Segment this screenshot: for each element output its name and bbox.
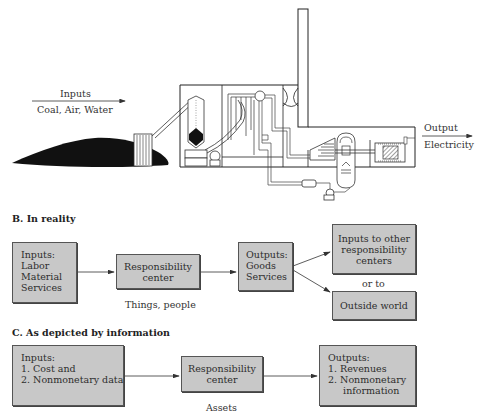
c-center-line: Responsibility — [188, 363, 256, 374]
b-other-centers-box: Inputs to other responsibility centers — [332, 224, 416, 274]
c-outputs-line: 2. Nonmonetary — [328, 374, 415, 385]
c-inputs-line: 2. Nonmonetary data — [21, 374, 123, 385]
b-other-centers-line: centers — [356, 255, 392, 266]
c-inputs-line: 1. Cost and — [21, 363, 123, 374]
b-inputs-line: Services — [21, 282, 76, 293]
b-center-caption: Things, people — [125, 299, 196, 310]
c-outputs-line: information — [328, 385, 415, 396]
c-inputs-line: Inputs: — [21, 352, 123, 363]
b-inputs-line: Labor — [21, 260, 76, 271]
inputs-label: Inputs — [60, 88, 91, 99]
b-inputs-line: Inputs: — [21, 249, 76, 260]
c-inputs-box: Inputs: 1. Cost and 2. Nonmonetary data — [12, 345, 124, 406]
b-inputs-line: Material — [21, 271, 76, 282]
c-center-line: center — [206, 374, 237, 385]
b-outputs-line: Goods — [246, 260, 292, 271]
b-center-line: center — [142, 272, 173, 283]
b-outside-world-box: Outside world — [332, 291, 416, 320]
section-c-title: C. As depicted by information — [12, 327, 170, 338]
b-other-centers-line: Inputs to other — [338, 233, 410, 244]
b-outputs-box: Outputs: Goods Services — [238, 242, 293, 291]
b-inputs-box: Inputs: Labor Material Services — [12, 242, 77, 303]
b-outside-line: Outside world — [340, 300, 408, 311]
b-responsibility-center-box: Responsibility center — [116, 254, 200, 289]
b-or-to: or to — [362, 278, 385, 289]
b-outputs-line: Services — [246, 271, 292, 282]
b-center-line: Responsibility — [124, 261, 192, 272]
b-outputs-line: Outputs: — [246, 249, 292, 260]
inputs-detail: Coal, Air, Water — [37, 104, 113, 115]
c-outputs-line: Outputs: — [328, 352, 415, 363]
section-b-title: B. In reality — [12, 213, 76, 224]
c-outputs-line: 1. Revenues — [328, 363, 415, 374]
c-outputs-box: Outputs: 1. Revenues 2. Nonmonetary info… — [319, 345, 416, 406]
c-responsibility-center-box: Responsibility center — [181, 356, 263, 392]
output-label: Output — [424, 122, 458, 133]
output-detail: Electricity — [424, 139, 474, 150]
b-other-centers-line: responsibility — [341, 244, 406, 255]
c-center-caption: Assets — [206, 402, 237, 413]
